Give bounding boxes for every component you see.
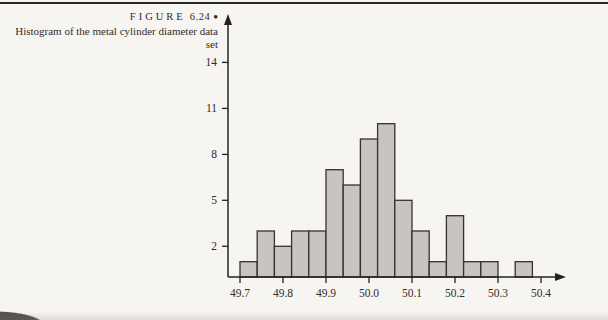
page-bottom-shading [0, 312, 608, 320]
histogram-bar [240, 262, 257, 277]
x-tick-label: 50.3 [488, 287, 508, 299]
y-tick-label: 2 [211, 240, 217, 252]
y-tick-label: 14 [206, 56, 218, 68]
x-tick-label: 50.1 [402, 287, 422, 299]
histogram-bar [429, 262, 446, 277]
histogram-bar [515, 262, 532, 277]
histogram-bar [464, 262, 481, 277]
x-tick-label: 50.4 [531, 287, 551, 299]
histogram-bar [378, 124, 395, 277]
x-axis: 49.749.849.950.050.150.250.350.4 [228, 273, 566, 299]
histogram-bar [257, 231, 274, 277]
histogram-bar [446, 216, 463, 277]
y-axis: 2581114 [206, 14, 233, 277]
x-tick-label: 50.0 [359, 287, 379, 299]
histogram-svg: 49.749.849.950.050.150.250.350.42581114 [0, 0, 608, 320]
histogram-bar [292, 231, 309, 277]
x-axis-arrow-icon [555, 273, 566, 281]
histogram-bar [395, 200, 412, 277]
x-tick-label: 49.9 [316, 287, 336, 299]
y-tick-label: 5 [211, 194, 217, 206]
histogram-bar [309, 231, 326, 277]
histogram-bar [326, 170, 343, 277]
histogram-bar [481, 262, 498, 277]
x-tick-label: 49.7 [230, 287, 250, 299]
scanned-page: FIGURE6.24● Histogram of the metal cylin… [0, 0, 608, 320]
histogram-bar [360, 139, 377, 277]
histogram-bar [412, 231, 429, 277]
y-tick-label: 8 [211, 148, 217, 160]
bars [240, 124, 532, 277]
histogram-bar [343, 185, 360, 277]
x-tick-label: 50.2 [445, 287, 465, 299]
y-tick-label: 11 [206, 102, 217, 114]
x-tick-label: 49.8 [273, 287, 293, 299]
y-axis-arrow-icon [224, 14, 232, 25]
histogram-bar [274, 246, 291, 277]
